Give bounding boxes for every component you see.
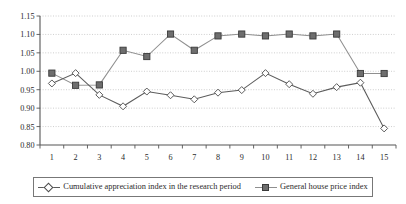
x-tick-label: 14	[356, 153, 364, 162]
data-point-diamond	[309, 90, 316, 97]
data-point-square	[310, 33, 316, 39]
data-point-diamond	[381, 125, 388, 132]
line-chart: 0.800.850.900.951.001.051.101.1512345678…	[0, 0, 406, 204]
data-point-diamond	[262, 70, 269, 77]
x-tick-label: 10	[261, 153, 269, 162]
data-point-square	[357, 70, 363, 76]
x-tick-label: 4	[121, 153, 125, 162]
x-tick-label: 8	[216, 153, 220, 162]
legend-label: Cumulative appreciation index in the res…	[63, 183, 241, 191]
data-point-square	[286, 31, 292, 37]
x-tick-label: 5	[145, 153, 149, 162]
y-tick-label: 1.00	[20, 67, 34, 76]
data-point-square	[381, 70, 387, 76]
data-point-diamond	[215, 89, 222, 96]
data-point-square	[96, 82, 102, 88]
y-tick-label: 1.05	[20, 49, 34, 58]
x-tick-label: 13	[333, 153, 341, 162]
square-marker-icon	[255, 183, 277, 192]
data-point-diamond	[167, 92, 174, 99]
legend-item-general-house-price-index: General house price index	[255, 183, 368, 192]
data-point-diamond	[48, 80, 55, 87]
chart-canvas: 0.800.850.900.951.001.051.101.1512345678…	[0, 0, 406, 204]
x-tick-label: 15	[380, 153, 388, 162]
data-point-diamond	[238, 87, 245, 94]
y-tick-label: 1.10	[20, 30, 34, 39]
y-tick-label: 1.15	[20, 12, 34, 21]
x-tick-label: 6	[168, 153, 172, 162]
data-point-square	[215, 33, 221, 39]
data-point-square	[49, 70, 55, 76]
data-point-square	[167, 31, 173, 37]
chart-legend: Cumulative appreciation index in the res…	[33, 177, 373, 197]
y-tick-label: 0.95	[20, 86, 34, 95]
data-point-square	[191, 47, 197, 53]
x-tick-label: 2	[74, 153, 78, 162]
x-tick-label: 7	[192, 153, 196, 162]
data-point-diamond	[143, 88, 150, 95]
data-point-square	[120, 47, 126, 53]
x-tick-label: 12	[309, 153, 317, 162]
y-tick-label: 0.80	[20, 141, 34, 150]
y-tick-label: 0.85	[20, 123, 34, 132]
data-point-square	[262, 33, 268, 39]
data-point-square	[334, 31, 340, 37]
legend-label: General house price index	[280, 183, 368, 191]
data-point-square	[239, 31, 245, 37]
data-point-diamond	[191, 96, 198, 103]
x-tick-label: 3	[97, 153, 101, 162]
y-tick-label: 0.90	[20, 104, 34, 113]
diamond-marker-icon	[38, 183, 60, 192]
data-point-diamond	[357, 79, 364, 86]
data-point-square	[73, 82, 79, 88]
x-tick-label: 1	[50, 153, 54, 162]
series-line-general-house-price-index	[52, 34, 384, 85]
data-point-diamond	[286, 81, 293, 88]
x-tick-label: 9	[240, 153, 244, 162]
data-point-diamond	[120, 103, 127, 110]
legend-item-cumulative-appreciation-index: Cumulative appreciation index in the res…	[38, 183, 241, 192]
x-tick-label: 11	[285, 153, 293, 162]
data-point-square	[144, 53, 150, 59]
